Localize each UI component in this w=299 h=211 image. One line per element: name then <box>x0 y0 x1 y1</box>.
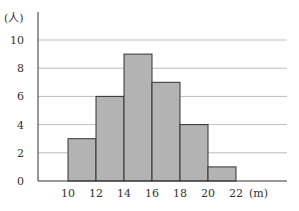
histogram-bar <box>124 54 152 181</box>
x-tick-label: 12 <box>89 187 103 200</box>
x-tick-label: 10 <box>61 187 75 200</box>
x-tick-label: 22 <box>229 187 243 200</box>
histogram-bar <box>68 139 96 181</box>
histogram-bar <box>152 82 180 181</box>
histogram-bar <box>180 125 208 181</box>
y-tick-label: 0 <box>17 175 24 188</box>
y-axis-unit-label: (人) <box>4 12 24 25</box>
x-axis-unit-label: (m) <box>249 187 268 200</box>
x-tick-label: 18 <box>173 187 187 200</box>
y-tick-label: 2 <box>17 147 24 160</box>
y-tick-label: 4 <box>17 119 24 132</box>
histogram-chart: 024681010121416182022(m)(人) <box>0 0 299 211</box>
histogram-bar <box>208 167 236 181</box>
x-tick-label: 14 <box>117 187 131 200</box>
x-tick-label: 20 <box>201 187 215 200</box>
x-tick-label: 16 <box>145 187 159 200</box>
y-tick-label: 6 <box>17 90 24 103</box>
y-tick-label: 8 <box>17 62 24 75</box>
histogram-bar <box>96 96 124 181</box>
y-tick-label: 10 <box>10 34 24 47</box>
